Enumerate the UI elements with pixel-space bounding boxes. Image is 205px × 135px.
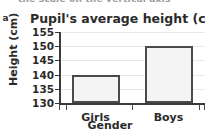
chart-title: Pupil's average height (cm) — [30, 11, 205, 26]
cut-off-header-text: the scale on the vertical axis — [18, 0, 205, 3]
plot-area: 130135140145150155 GirlsBoys — [59, 30, 205, 103]
y-axis-line — [59, 32, 61, 104]
x-tick-mark — [204, 105, 205, 110]
y-tick-label: 135 — [21, 84, 54, 94]
y-axis-label: Height (cm) — [7, 14, 21, 86]
bar-boys — [145, 46, 193, 103]
y-tick-label: 155 — [21, 27, 54, 37]
x-tick-mark — [199, 105, 200, 110]
y-tick-label: 145 — [21, 55, 54, 65]
x-tick-mark — [132, 105, 133, 110]
x-tick-mark — [59, 105, 60, 110]
gridline — [59, 32, 205, 33]
x-axis-line — [59, 103, 205, 105]
y-tick-label: 130 — [21, 98, 54, 108]
x-axis-label: Gender — [55, 119, 165, 132]
y-tick-label: 140 — [21, 70, 54, 80]
y-tick-label: 150 — [21, 41, 54, 51]
x-tick-mark — [66, 105, 67, 110]
bar-girls — [72, 75, 120, 103]
